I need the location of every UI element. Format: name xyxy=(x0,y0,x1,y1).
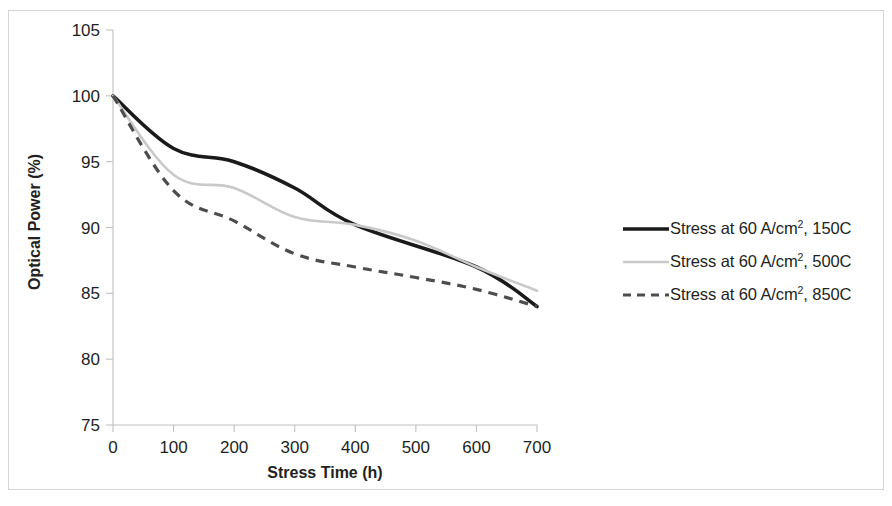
y-tick-label-75: 75 xyxy=(81,416,100,435)
y-tick-label-80: 80 xyxy=(81,350,100,369)
legend-item-150c[interactable]: Stress at 60 A/cm2, 150C xyxy=(622,212,882,245)
legend-label-150c: Stress at 60 A/cm2, 150C xyxy=(670,219,851,238)
x-axis-ticks xyxy=(113,425,537,432)
y-tick-label-95: 95 xyxy=(81,153,100,172)
x-axis-group: 0100200300400500600700 xyxy=(108,425,551,457)
x-tick-label-700: 700 xyxy=(523,438,551,457)
legend-label-850c: Stress at 60 A/cm2, 850C xyxy=(670,285,851,304)
y-tick-label-100: 100 xyxy=(72,87,100,106)
series-line-850c xyxy=(113,96,537,307)
y-axis-group: 7580859095100105 xyxy=(72,21,113,435)
series-line-150c xyxy=(113,96,537,307)
y-axis-ticks xyxy=(106,30,113,425)
legend-label-500c: Stress at 60 A/cm2, 500C xyxy=(670,252,851,271)
x-tick-label-100: 100 xyxy=(159,438,187,457)
x-tick-label-400: 400 xyxy=(341,438,369,457)
x-axis-title: Stress Time (h) xyxy=(267,464,382,481)
y-tick-label-105: 105 xyxy=(72,21,100,40)
x-tick-label-0: 0 xyxy=(108,438,117,457)
y-axis-tick-labels: 7580859095100105 xyxy=(72,21,100,435)
x-tick-label-500: 500 xyxy=(402,438,430,457)
y-axis-title: Optical Power (%) xyxy=(26,154,43,290)
chart-legend: Stress at 60 A/cm2, 150C Stress at 60 A/… xyxy=(622,212,882,311)
x-tick-label-200: 200 xyxy=(220,438,248,457)
legend-swatch-solid-icon xyxy=(622,222,670,236)
chart-container: 7580859095100105 0100200300400500600700 … xyxy=(0,0,892,506)
legend-item-850c[interactable]: Stress at 60 A/cm2, 850C xyxy=(622,278,882,311)
legend-item-500c[interactable]: Stress at 60 A/cm2, 500C xyxy=(622,245,882,278)
y-tick-label-90: 90 xyxy=(81,219,100,238)
x-tick-label-300: 300 xyxy=(281,438,309,457)
y-tick-label-85: 85 xyxy=(81,284,100,303)
legend-swatch-thin-icon xyxy=(622,255,670,269)
x-axis-tick-labels: 0100200300400500600700 xyxy=(108,438,551,457)
x-tick-label-600: 600 xyxy=(462,438,490,457)
legend-swatch-dashed-icon xyxy=(622,288,670,302)
